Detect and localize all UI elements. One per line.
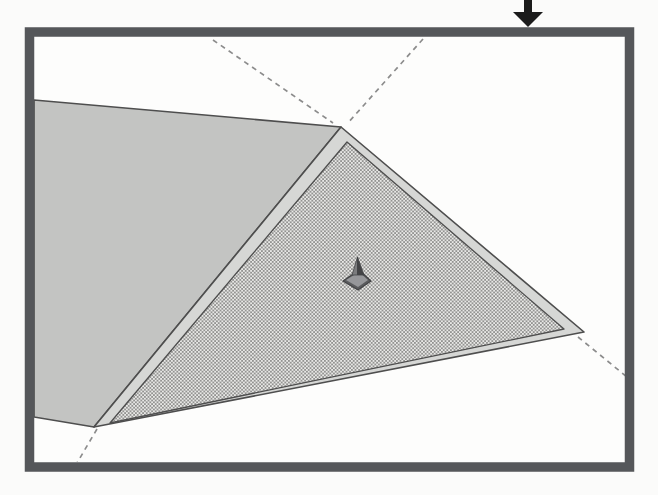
figure-stage: [0, 0, 658, 495]
pointer-arrow-head: [513, 12, 543, 27]
figure-svg: [0, 0, 658, 495]
frame-contents: [34, 37, 627, 463]
pointer-arrow-shaft: [524, 0, 532, 14]
